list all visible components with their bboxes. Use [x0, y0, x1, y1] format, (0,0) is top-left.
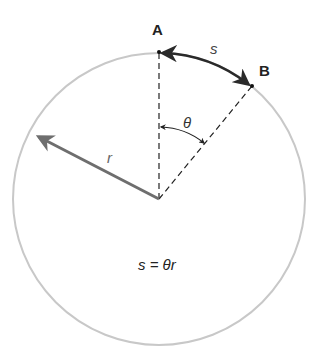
label-a: A — [152, 21, 163, 38]
dashed-radius-b — [159, 86, 252, 199]
point-a — [157, 50, 161, 54]
formula: s = θr — [138, 256, 177, 273]
label-r: r — [107, 149, 113, 166]
radius-arrow — [39, 137, 159, 199]
label-s: s — [210, 40, 218, 57]
arc-length-diagram: A B s θ r s = θr — [0, 0, 325, 357]
arc-s-arrow — [163, 53, 248, 84]
point-b — [250, 84, 254, 88]
label-theta: θ — [183, 114, 191, 131]
label-b: B — [259, 62, 270, 79]
